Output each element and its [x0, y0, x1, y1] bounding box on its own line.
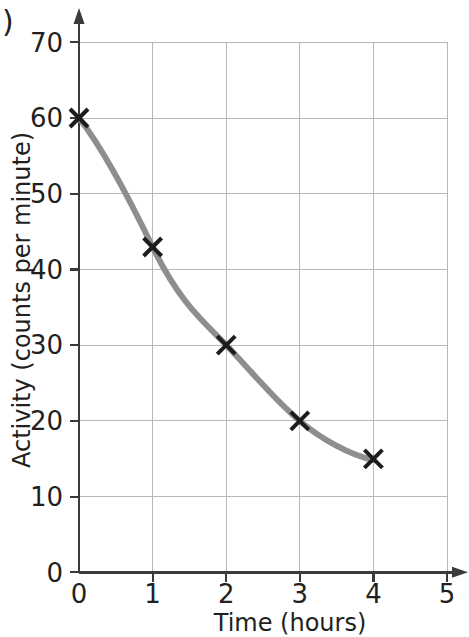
- x-tick-label-4: 4: [365, 579, 382, 609]
- x-tick-label-1: 1: [144, 579, 161, 609]
- y-tick-label-70: 70: [30, 28, 63, 58]
- activity-vs-time-chart: 0 10 20 30 40 50 60 70 0 1 2 3 4 5 Time …: [0, 0, 469, 637]
- y-tick-label-60: 60: [30, 103, 63, 133]
- chart-background: [0, 0, 469, 637]
- y-axis-title: Activity (counts per minute): [8, 132, 36, 468]
- x-tick-label-0: 0: [71, 579, 88, 609]
- x-tick-label-3: 3: [292, 579, 309, 609]
- part-label: ): [2, 4, 14, 39]
- x-tick-label-5: 5: [439, 579, 456, 609]
- x-axis-title: Time (hours): [213, 609, 367, 637]
- figure-container: 0 10 20 30 40 50 60 70 0 1 2 3 4 5 Time …: [0, 0, 469, 637]
- y-tick-label-0: 0: [46, 558, 63, 588]
- x-tick-label-2: 2: [218, 579, 235, 609]
- y-tick-label-10: 10: [30, 482, 63, 512]
